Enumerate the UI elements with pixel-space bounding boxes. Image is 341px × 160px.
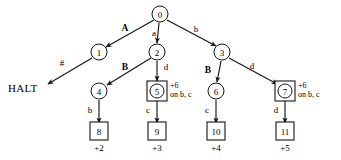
cost-label-n9: +3: [152, 143, 162, 153]
edge-label-e-0-2: a: [152, 28, 156, 38]
node-label-7: 7: [283, 87, 288, 97]
node-label-11: 11: [281, 127, 290, 137]
annotation-n7-line2: on b, c: [298, 90, 320, 99]
node-label-9: 9: [155, 127, 160, 137]
edge-n0-to-n2: [157, 23, 159, 43]
node-label-1: 1: [97, 48, 102, 58]
node-0[interactable]: 0: [152, 6, 168, 22]
search-tree-diagram: 01234567891011 Aab#BdBdbccdHALT+6on b, c…: [0, 0, 341, 160]
edge-label-e-0-3: b: [194, 24, 199, 34]
node-9[interactable]: 9: [148, 122, 166, 140]
node-4[interactable]: 4: [91, 83, 107, 99]
annotation-n5-line2: on b, c: [170, 90, 192, 99]
edge-n1-to-halt: [48, 58, 92, 84]
node-label-0: 0: [158, 10, 163, 20]
edge-n0-to-n3: [167, 20, 216, 46]
node-11[interactable]: 11: [276, 122, 294, 140]
edge-label-e-7-11: d: [274, 105, 279, 115]
node-label-10: 10: [212, 127, 222, 137]
node-5[interactable]: 5: [147, 81, 167, 101]
node-label-6: 6: [214, 87, 219, 97]
node-8[interactable]: 8: [90, 122, 108, 140]
edge-n0-to-n1: [106, 20, 154, 47]
node-label-5: 5: [155, 87, 160, 97]
edge-n3-to-n6: [217, 61, 221, 82]
edge-label-e-4-8: b: [88, 105, 93, 115]
annotation-n7-line1: +6: [298, 81, 307, 90]
node-10[interactable]: 10: [207, 122, 225, 140]
node-label-2: 2: [155, 48, 160, 58]
node-label-4: 4: [97, 87, 102, 97]
edge-label-e-0-1: A: [122, 23, 129, 33]
node-3[interactable]: 3: [214, 44, 230, 60]
edge-label-e-1-halt: #: [60, 58, 65, 68]
cost-label-n8: +2: [94, 143, 104, 153]
halt-label: HALT: [8, 82, 38, 94]
node-2[interactable]: 2: [149, 44, 165, 60]
diagram-canvas: 01234567891011 Aab#BdBdbccdHALT+6on b, c…: [0, 0, 341, 160]
node-1[interactable]: 1: [91, 44, 107, 60]
edge-label-e-2-5: d: [164, 62, 169, 72]
node-label-8: 8: [97, 127, 102, 137]
edge-label-e-6-10: c: [205, 105, 209, 115]
edge-label-e-5-9: c: [146, 105, 150, 115]
cost-label-n10: +4: [211, 143, 221, 153]
edge-label-e-3-6: B: [205, 65, 212, 75]
edge-label-e-3-7: d: [250, 61, 255, 71]
edge-n2-to-n4: [107, 58, 151, 85]
cost-label-n11: +5: [280, 143, 290, 153]
node-6[interactable]: 6: [208, 83, 224, 99]
node-7[interactable]: 7: [275, 81, 295, 101]
node-label-3: 3: [220, 48, 225, 58]
edge-label-e-2-4: B: [122, 62, 129, 72]
annotation-n5-line1: +6: [170, 81, 179, 90]
